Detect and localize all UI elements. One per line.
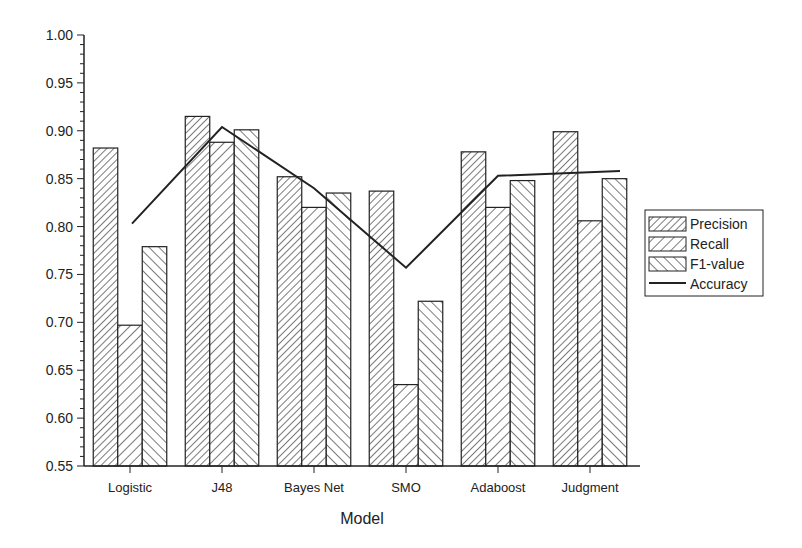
x-tick-label: Judgment xyxy=(561,480,618,495)
legend-label: Accuracy xyxy=(690,276,748,292)
bar-precision-judgment xyxy=(553,132,578,466)
y-tick-label: 0.80 xyxy=(46,219,73,235)
bar-recall-judgment xyxy=(578,221,603,466)
legend-label: Precision xyxy=(690,216,748,232)
y-tick-label: 0.75 xyxy=(46,266,73,282)
x-tick-label: Adaboost xyxy=(471,480,526,495)
legend-label: Recall xyxy=(690,236,729,252)
bar-chart: 0.550.600.650.700.750.800.850.900.951.00… xyxy=(0,0,802,548)
bar-f1-value-judgment xyxy=(602,179,627,466)
bar-precision-smo xyxy=(369,191,394,466)
bar-recall-bayes-net xyxy=(302,207,327,466)
chart-container: 0.550.600.650.700.750.800.850.900.951.00… xyxy=(0,0,802,548)
bar-f1-value-smo xyxy=(418,301,443,466)
y-tick-label: 1.00 xyxy=(46,27,73,43)
bar-precision-j48 xyxy=(185,116,210,466)
y-tick-label: 0.55 xyxy=(46,458,73,474)
bar-recall-adaboost xyxy=(486,207,511,466)
bar-recall-smo xyxy=(394,385,419,466)
x-tick-label: SMO xyxy=(391,480,421,495)
bar-f1-value-logistic xyxy=(142,247,167,466)
legend-swatch-precision xyxy=(649,217,686,231)
y-tick-label: 0.70 xyxy=(46,314,73,330)
legend: PrecisionRecallF1-valueAccuracy xyxy=(645,210,763,296)
bar-f1-value-j48 xyxy=(234,130,259,466)
legend-swatch-recall xyxy=(649,237,686,251)
bar-recall-j48 xyxy=(210,142,235,466)
x-tick-label: Bayes Net xyxy=(284,480,344,495)
legend-swatch-f1-value xyxy=(649,257,686,271)
y-tick-label: 0.60 xyxy=(46,410,73,426)
x-tick-label: Logistic xyxy=(108,480,153,495)
x-tick-label: J48 xyxy=(212,480,233,495)
bars-group xyxy=(93,116,627,466)
x-axis-title: Model xyxy=(340,510,384,527)
y-tick-label: 0.65 xyxy=(46,362,73,378)
bar-f1-value-bayes-net xyxy=(326,193,351,466)
y-tick-label: 0.95 xyxy=(46,75,73,91)
bar-precision-logistic xyxy=(93,148,118,466)
bar-f1-value-adaboost xyxy=(510,181,535,466)
bar-precision-bayes-net xyxy=(277,177,302,466)
y-tick-label: 0.90 xyxy=(46,123,73,139)
bar-recall-logistic xyxy=(118,325,143,466)
legend-label: F1-value xyxy=(690,256,745,272)
y-tick-label: 0.85 xyxy=(46,171,73,187)
